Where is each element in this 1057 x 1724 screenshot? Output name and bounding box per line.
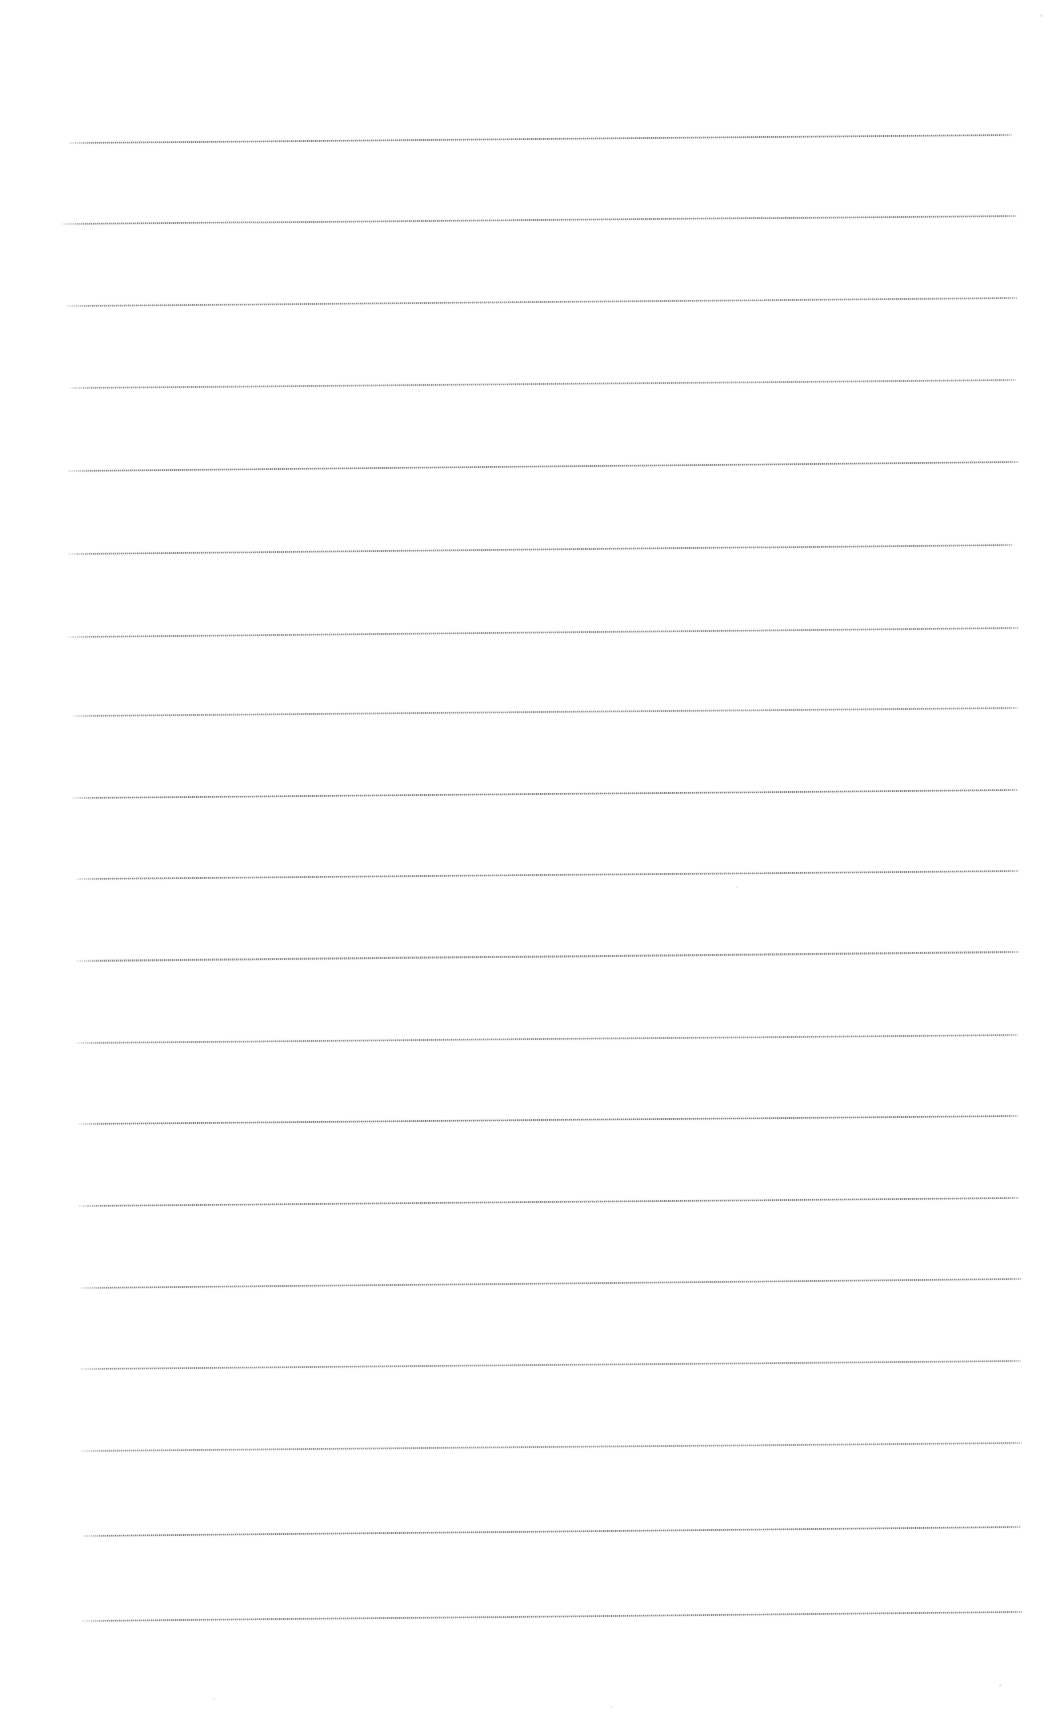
ruled-line xyxy=(72,707,1018,717)
ruled-line xyxy=(80,1442,1022,1452)
scan-speck xyxy=(213,1698,215,1700)
ruled-line-ink xyxy=(80,1278,1022,1289)
ruled-line-ink xyxy=(68,544,1013,555)
ruled-line-ink xyxy=(76,870,1019,880)
ruled-line xyxy=(78,1197,1019,1207)
ruled-line-left-fade xyxy=(69,386,95,390)
scan-speck xyxy=(736,886,738,888)
ruled-line-right-fade xyxy=(1003,214,1017,218)
ruled-line xyxy=(69,379,1016,389)
paper-surface xyxy=(0,0,1057,1724)
ruled-line-halo xyxy=(76,1033,1018,1045)
ruled-line-left-fade xyxy=(72,796,98,800)
ruled-line-right-fade xyxy=(1004,788,1018,792)
ruled-line-right-fade xyxy=(1004,296,1018,300)
ruled-line-right-fade xyxy=(999,543,1013,547)
ruled-line-left-fade xyxy=(80,1286,106,1290)
ruled-line-left-fade xyxy=(68,469,94,473)
ruled-line xyxy=(76,951,1019,962)
ruled-line-right-fade xyxy=(1002,378,1016,382)
scan-speck xyxy=(418,390,420,392)
ruled-line-right-fade xyxy=(1008,1277,1022,1281)
ruled-line-left-fade xyxy=(76,1041,102,1045)
ruled-line-halo xyxy=(68,543,1013,556)
ruled-line-ink xyxy=(78,1197,1019,1207)
ruled-line-halo xyxy=(78,1114,1018,1126)
ruled-line-right-fade xyxy=(1007,1359,1021,1363)
ruled-line xyxy=(72,789,1018,799)
ruled-line-halo xyxy=(62,214,1017,226)
ruled-line-right-fade xyxy=(1005,869,1019,873)
ruled-line-left-fade xyxy=(82,1534,108,1538)
scan-speck xyxy=(735,470,737,472)
ruled-line-halo xyxy=(78,1196,1019,1208)
ruled-line-left-fade xyxy=(62,222,88,226)
ruled-line-left-fade xyxy=(68,552,94,556)
ruled-line-left-fade xyxy=(78,1204,104,1208)
scan-speck xyxy=(999,1684,1002,1687)
ruled-line-ink xyxy=(76,951,1019,962)
ruled-line-left-fade xyxy=(80,1367,106,1371)
ruled-line-left-fade xyxy=(82,1619,108,1623)
ruled-line-left-fade xyxy=(76,959,102,963)
scan-speck xyxy=(610,1706,612,1708)
ruled-line-halo xyxy=(82,1610,1023,1623)
ruled-line-halo xyxy=(68,460,1019,473)
ruled-line-right-fade xyxy=(1004,1033,1018,1037)
ruled-line-halo xyxy=(66,296,1018,308)
ruled-line xyxy=(80,1278,1022,1289)
ruled-line-ink xyxy=(72,789,1018,799)
ruled-line xyxy=(68,627,1019,638)
ruled-line-halo xyxy=(80,1359,1021,1371)
ruled-line xyxy=(68,544,1013,555)
ruled-line-ink xyxy=(66,297,1018,307)
ruled-line-ink xyxy=(69,379,1016,389)
ruled-line-right-fade xyxy=(1005,460,1019,464)
ruled-line-halo xyxy=(68,626,1019,639)
ruled-line xyxy=(78,1115,1018,1125)
ruled-line xyxy=(80,1360,1021,1370)
ruled-line-right-fade xyxy=(1004,706,1018,710)
ruled-line xyxy=(62,215,1017,225)
ruled-line-left-fade xyxy=(68,635,94,639)
ruled-line-ink xyxy=(62,215,1017,225)
ruled-line-ink xyxy=(82,1611,1023,1622)
ruled-line xyxy=(68,461,1019,472)
ruled-line-left-fade xyxy=(68,141,94,145)
ruled-line-ink xyxy=(78,1115,1018,1125)
ruled-line-halo xyxy=(80,1441,1022,1453)
ruled-line xyxy=(68,134,1012,144)
ruled-line-left-fade xyxy=(66,304,92,308)
ruled-line-right-fade xyxy=(1005,1196,1019,1200)
ruled-line-right-fade xyxy=(1005,950,1019,954)
ruled-line-right-fade xyxy=(998,133,1012,137)
ruled-line-halo xyxy=(76,869,1019,881)
scan-speck xyxy=(1040,14,1043,17)
ruled-line-ink xyxy=(72,707,1018,717)
ruled-line xyxy=(82,1611,1023,1622)
ruled-line-left-fade xyxy=(78,1122,104,1126)
ruled-line-right-fade xyxy=(1004,1114,1018,1118)
ruled-line xyxy=(82,1526,1021,1537)
ruled-line-halo xyxy=(72,706,1018,718)
ruled-line-right-fade xyxy=(1008,1441,1022,1445)
ruled-line-halo xyxy=(68,133,1012,145)
ruled-line xyxy=(76,1034,1018,1044)
ruled-line xyxy=(66,297,1018,307)
ruled-line-ink xyxy=(68,627,1019,638)
ruled-line-right-fade xyxy=(1007,1525,1021,1529)
ruled-line-halo xyxy=(76,950,1019,963)
ruled-line-right-fade xyxy=(1009,1610,1023,1614)
ruled-line xyxy=(76,870,1019,880)
ruled-line-ink xyxy=(68,461,1019,472)
ruled-line-ink xyxy=(80,1360,1021,1370)
ruled-line-left-fade xyxy=(72,714,98,718)
ruled-line-left-fade xyxy=(80,1449,106,1453)
ruled-line-right-fade xyxy=(1005,626,1019,630)
ruled-line-ink xyxy=(76,1034,1018,1044)
ruled-line-halo xyxy=(80,1277,1022,1290)
ruled-line-halo xyxy=(72,788,1018,800)
scanned-page xyxy=(0,0,1057,1724)
ruled-line-ink xyxy=(80,1442,1022,1452)
ruled-line-ink xyxy=(82,1526,1021,1537)
